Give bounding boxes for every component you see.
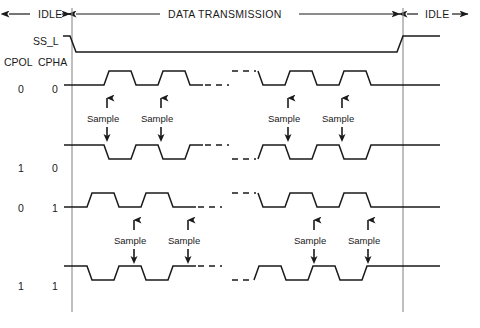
row-2-waveform-right xyxy=(258,193,440,207)
data-transmission-label: DATA TRANSMISSION xyxy=(168,8,282,20)
row-3-waveform-left xyxy=(64,266,196,280)
sample-marker-4: Sample xyxy=(322,98,354,142)
row-2-cpol-value: 0 xyxy=(18,202,24,214)
sample-marker-8: Sample xyxy=(348,220,380,264)
row-0-waveform-left xyxy=(64,71,203,85)
column-headers: CPOL CPHA xyxy=(4,56,67,68)
clock-row-cpol0-cpha0: 0 0 xyxy=(18,71,440,95)
timing-diagram-canvas: IDLE DATA TRANSMISSION IDLE SS_L xyxy=(0,0,480,328)
sample-label-4: Sample xyxy=(322,113,354,124)
sample-group-upper: Sample Sample Sample Sample xyxy=(87,98,354,142)
row-1-cpha-value: 0 xyxy=(52,162,58,174)
idle-right-label: IDLE xyxy=(425,8,450,20)
ss-l-waveform xyxy=(63,36,440,52)
idle-right-span: IDLE xyxy=(407,8,468,20)
ss-l-label: SS_L xyxy=(33,35,59,47)
sample-marker-5: Sample xyxy=(114,220,146,264)
sample-label-1: Sample xyxy=(87,113,119,124)
sample-label-3: Sample xyxy=(268,113,300,124)
phase-header-bar: IDLE DATA TRANSMISSION IDLE xyxy=(9,8,468,20)
row-0-cpol-value: 0 xyxy=(18,83,24,95)
row-1-waveform-left xyxy=(64,145,203,159)
sample-label-5: Sample xyxy=(114,235,146,246)
row-0-waveform-right xyxy=(258,71,440,85)
sample-marker-6: Sample xyxy=(168,220,200,264)
row-3-cpha-value: 1 xyxy=(52,280,58,292)
row-1-cpol-value: 1 xyxy=(18,162,24,174)
clock-row-cpol0-cpha1: 0 1 xyxy=(18,193,440,214)
sample-label-2: Sample xyxy=(141,113,173,124)
clock-row-cpol1-cpha0: 1 0 xyxy=(18,145,440,174)
idle-left-label: IDLE xyxy=(38,8,63,20)
row-3-waveform-right xyxy=(254,266,440,280)
sample-label-6: Sample xyxy=(168,235,200,246)
sample-marker-3: Sample xyxy=(268,98,300,142)
sample-marker-7: Sample xyxy=(294,220,326,264)
spi-timing-figure: IDLE DATA TRANSMISSION IDLE SS_L xyxy=(0,0,480,328)
sample-marker-1: Sample xyxy=(87,98,119,142)
row-2-cpha-value: 1 xyxy=(52,202,58,214)
row-2-waveform-left xyxy=(64,193,196,207)
ss-l-signal: SS_L xyxy=(33,35,440,52)
row-1-waveform-right xyxy=(258,145,440,159)
data-transmission-span: DATA TRANSMISSION xyxy=(76,8,400,20)
row-0-cpha-value: 0 xyxy=(52,83,58,95)
sample-marker-2: Sample xyxy=(141,98,173,142)
cpha-column-header: CPHA xyxy=(38,56,67,68)
clock-row-cpol1-cpha1: 1 1 xyxy=(18,266,440,292)
sample-label-7: Sample xyxy=(294,235,326,246)
sample-group-lower: Sample Sample Sample Sample xyxy=(114,220,380,264)
row-3-cpol-value: 1 xyxy=(18,280,24,292)
idle-left-span: IDLE xyxy=(9,8,70,20)
sample-label-8: Sample xyxy=(348,235,380,246)
cpol-column-header: CPOL xyxy=(4,56,33,68)
